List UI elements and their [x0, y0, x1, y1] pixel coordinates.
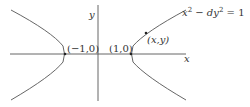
eq-rhs: = 1 [223, 7, 244, 18]
right-branch [132, 10, 187, 100]
general-point-label: (x,y) [147, 34, 169, 45]
left-branch [11, 10, 65, 100]
hyperbola-diagram: y x (−1,0) (1,0) (x,y) x2 − dy2 = 1 [0, 0, 250, 107]
equation-label: x2 − dy2 = 1 [182, 6, 245, 18]
left-vertex-label: (−1,0) [67, 43, 99, 54]
x-axis-label: x [184, 53, 190, 64]
left-vertex-dot [64, 53, 67, 56]
y-axis-label: y [88, 9, 95, 20]
eq-term-dy: dy [207, 7, 219, 18]
right-vertex-label: (1,0) [109, 43, 133, 54]
eq-minus: − [192, 7, 207, 18]
